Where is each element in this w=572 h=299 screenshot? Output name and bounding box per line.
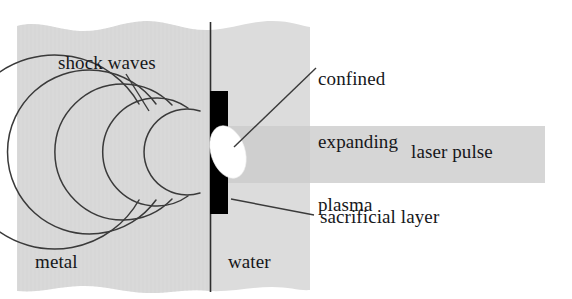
label-metal: metal: [35, 251, 78, 272]
figure-canvas: shock waves confined expanding plasma la…: [0, 0, 572, 299]
label-water: water: [228, 251, 271, 272]
label-sacrificial-layer: sacrificial layer: [320, 206, 439, 227]
label-confined-line-2: expanding: [318, 131, 398, 152]
label-confined-line-1: confined: [318, 68, 398, 89]
label-laser-pulse: laser pulse: [411, 141, 493, 162]
label-shock-waves: shock waves: [58, 52, 156, 73]
